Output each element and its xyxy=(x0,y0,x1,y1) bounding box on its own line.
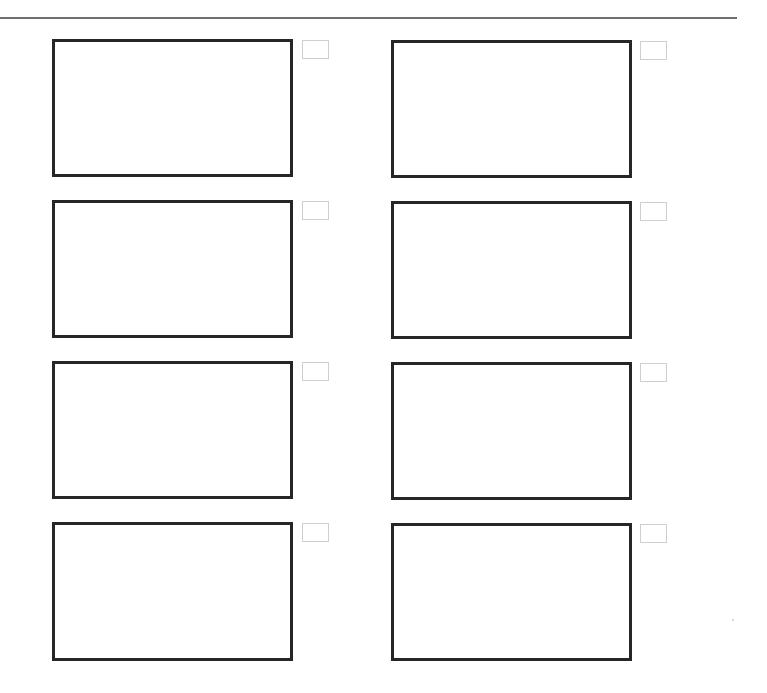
storyboard-panel-8[interactable] xyxy=(391,523,632,661)
panel-checkbox-1[interactable] xyxy=(302,40,329,59)
storyboard-panel-4[interactable] xyxy=(391,201,632,339)
storyboard-panel-3[interactable] xyxy=(52,200,293,338)
storyboard-panel-6[interactable] xyxy=(391,362,632,500)
storyboard-panel-7[interactable] xyxy=(52,522,293,661)
panel-checkbox-8[interactable] xyxy=(640,524,667,543)
storyboard-panel-2[interactable] xyxy=(391,40,632,178)
scan-speck xyxy=(732,619,734,621)
storyboard-panel-5[interactable] xyxy=(52,361,293,499)
storyboard-panel-1[interactable] xyxy=(52,39,293,177)
panel-checkbox-7[interactable] xyxy=(302,523,329,542)
panel-checkbox-2[interactable] xyxy=(640,41,667,60)
header-rule xyxy=(0,17,737,19)
panel-checkbox-4[interactable] xyxy=(640,202,667,221)
panel-checkbox-5[interactable] xyxy=(302,362,329,381)
panel-checkbox-3[interactable] xyxy=(302,201,329,220)
panel-checkbox-6[interactable] xyxy=(640,363,667,382)
